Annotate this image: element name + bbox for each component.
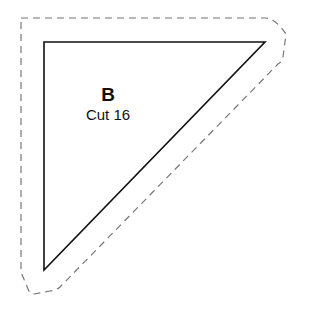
- template-piece-drawing: [0, 0, 312, 309]
- finished-triangle-sewing-line: [44, 42, 265, 270]
- piece-letter-label: B: [86, 85, 130, 105]
- cut-quantity-label: Cut 16: [76, 106, 140, 124]
